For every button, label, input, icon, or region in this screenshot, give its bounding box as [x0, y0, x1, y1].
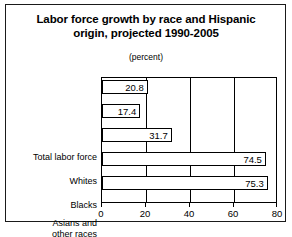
x-axis-tick-labels: 0 20 40 60 80: [101, 208, 277, 222]
bar-total-labor-force: 20.8: [102, 80, 148, 94]
x-tick-80: [276, 203, 277, 207]
bar-asians-and-other-races: 74.5: [102, 152, 266, 166]
bar-value-label: 20.8: [103, 81, 147, 93]
bar-value-label: 75.3: [103, 177, 267, 189]
plot-area: 20.8 17.4 31.7 74.5 75.3: [101, 77, 277, 203]
category-label-asians-and-other-races: Asians and other races: [7, 218, 97, 230]
chart-title: Labor force growth by race and Hispanic …: [18, 13, 274, 40]
x-tick-label-60: 60: [228, 208, 239, 219]
category-axis-labels: Total labor force Whites Blacks Asians a…: [6, 77, 97, 203]
x-tick-label-20: 20: [140, 208, 151, 219]
x-tick-label-40: 40: [184, 208, 195, 219]
category-label-blacks: Blacks: [7, 200, 97, 211]
bar-blacks: 31.7: [102, 128, 172, 142]
x-tick-0: [101, 203, 102, 207]
bar-value-label: 17.4: [103, 105, 139, 117]
bar-whites: 17.4: [102, 104, 140, 118]
chart-subtitle: (percent): [18, 52, 274, 62]
x-tick-20: [145, 203, 146, 207]
chart-title-line-1: Labor force growth by race and Hispanic: [18, 13, 274, 27]
bar-value-label: 31.7: [103, 129, 171, 141]
x-tick-label-80: 80: [272, 208, 283, 219]
chart-title-line-2: origin, projected 1990-2005: [18, 27, 274, 41]
bar-value-label: 74.5: [103, 153, 265, 165]
category-label-whites: Whites: [7, 176, 97, 187]
x-tick-40: [189, 203, 190, 207]
chart-figure: Labor force growth by race and Hispanic …: [5, 4, 286, 222]
bar-hispanics: 75.3: [102, 176, 268, 190]
x-tick-60: [233, 203, 234, 207]
x-tick-label-0: 0: [98, 208, 103, 219]
category-label-total-labor-force: Total labor force: [7, 152, 97, 163]
